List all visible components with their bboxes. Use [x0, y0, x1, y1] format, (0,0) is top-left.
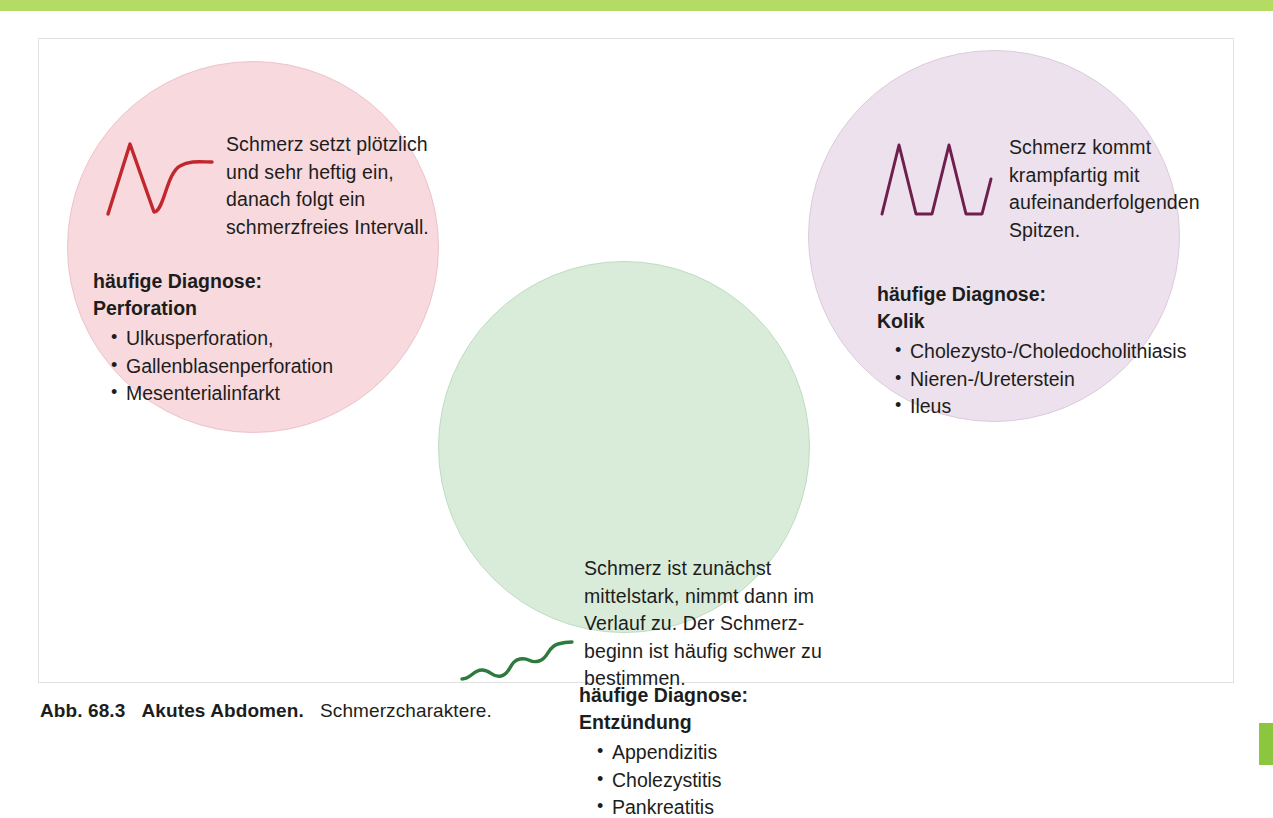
- diagnosis-block-inflammation: häufige Diagnose: Entzündung Appendiziti…: [579, 682, 748, 818]
- list-item: Mesenterialinfarkt: [111, 380, 333, 408]
- description-inflammation: Schmerz ist zunächst mittelstark, nimmt …: [584, 555, 826, 693]
- diagnosis-heading-inflammation: häufige Diagnose:: [579, 682, 748, 709]
- caption-subtitle: Schmerzcharaktere.: [320, 700, 492, 721]
- description-perforation: Schmerz setzt plötzlich und sehr heftig …: [226, 131, 440, 241]
- figure-caption: Abb. 68.3 Akutes Abdomen. Schmerzcharakt…: [40, 700, 492, 722]
- diagnosis-name-perforation: Perforation: [93, 295, 333, 322]
- caption-title: Akutes Abdomen.: [142, 700, 304, 721]
- gradual-rising-wavy-waveform-icon: [459, 637, 575, 687]
- diagnosis-list-inflammation: Appendizitis Cholezystitis Pankreatitis: [579, 739, 748, 818]
- diagnosis-block-colic: häufige Diagnose: Kolik Cholezysto-/Chol…: [877, 281, 1186, 421]
- repeated-sharp-spikes-waveform-icon: [879, 139, 995, 221]
- diagnosis-name-inflammation: Entzündung: [579, 709, 748, 736]
- list-item: Cholezystitis: [597, 767, 748, 795]
- list-item: Ulkusperforation,: [111, 325, 333, 353]
- description-colic: Schmerz kommt krampfartig mit aufeinande…: [1009, 134, 1219, 244]
- top-accent-bar: [0, 0, 1273, 11]
- list-item: Cholezysto-/Choledocholithiasis: [895, 338, 1186, 366]
- diagnosis-name-colic: Kolik: [877, 308, 1186, 335]
- bubble-inflammation: Schmerz ist zunächst mittelstark, nimmt …: [438, 261, 810, 633]
- sudden-peak-then-flat-waveform-icon: [104, 134, 216, 220]
- diagnosis-heading-perforation: häufige Diagnose:: [93, 268, 333, 295]
- list-item: Pankreatitis: [597, 794, 748, 818]
- diagnosis-block-perforation: häufige Diagnose: Perforation Ulkusperfo…: [93, 268, 333, 408]
- corner-tab: [1259, 723, 1273, 765]
- diagnosis-heading-colic: häufige Diagnose:: [877, 281, 1186, 308]
- list-item: Gallenblasenperforation: [111, 353, 333, 381]
- figure-canvas: Schmerz setzt plötzlich und sehr heftig …: [38, 38, 1234, 683]
- diagnosis-list-perforation: Ulkusperforation, Gallenblasenperforatio…: [93, 325, 333, 408]
- bubble-colic: Schmerz kommt krampfartig mit aufeinande…: [808, 50, 1180, 422]
- list-item: Ileus: [895, 393, 1186, 421]
- diagnosis-list-colic: Cholezysto-/Choledocholithiasis Nieren-/…: [877, 338, 1186, 421]
- list-item: Nieren-/Ureterstein: [895, 366, 1186, 394]
- list-item: Appendizitis: [597, 739, 748, 767]
- caption-label: Abb. 68.3: [40, 700, 125, 721]
